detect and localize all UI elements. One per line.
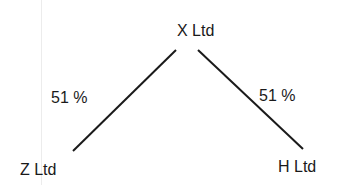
node-h-ltd: H Ltd [278, 158, 316, 176]
edge-x-to-z [73, 50, 176, 151]
edge-label-x-h: 51 % [259, 87, 295, 105]
node-z-ltd: Z Ltd [20, 161, 56, 179]
edge-label-x-z: 51 % [51, 89, 87, 107]
node-x-ltd: X Ltd [177, 22, 214, 40]
